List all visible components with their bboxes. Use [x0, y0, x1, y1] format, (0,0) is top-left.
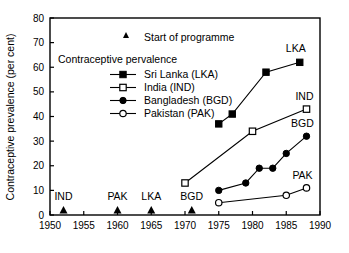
legend-label-ind: India (IND): [144, 81, 195, 93]
series-end-label-pak: PAK: [292, 169, 312, 181]
x-tick-label: 1980: [241, 220, 264, 231]
legend-label-lka: Sri Lanka (LKA): [144, 68, 218, 80]
x-tick-label: 1990: [309, 220, 332, 231]
datapoint-bgd-1985: [283, 150, 289, 156]
datapoint-lka-1982: [263, 69, 269, 75]
y-tick-label: 20: [33, 160, 45, 171]
datapoint-pak-1975: [216, 199, 222, 205]
programme-start-label-bgd: BGD: [180, 190, 203, 202]
x-axis-tick-labels: 195019551960196519701975198019851990: [39, 220, 332, 231]
x-tick-label: 1975: [208, 220, 231, 231]
y-tick-label: 0: [38, 210, 44, 221]
contraceptive-prevalence-line-chart: 01020304050607080 1950195519601965197019…: [0, 0, 349, 253]
series-end-label-lka: LKA: [286, 42, 306, 54]
series-bgd: [216, 133, 310, 194]
legend-label-bgd: Bangladesh (BGD): [144, 94, 232, 106]
datapoint-bgd-1988: [303, 133, 309, 139]
legend-start-of-programme-label: Start of programme: [144, 31, 235, 43]
datapoint-ind-1980: [249, 128, 255, 134]
datapoint-bgd-1981: [256, 165, 262, 171]
series-end-label-ind: IND: [295, 90, 314, 102]
series-line-pak: [219, 188, 307, 203]
datapoint-bgd-1979: [243, 180, 249, 186]
y-axis-title: Contraceptive prevalence (per cent): [4, 34, 16, 201]
programme-start-triangle-bgd: [188, 206, 196, 214]
legend-marker-pak: [120, 110, 126, 116]
legend-marker-lka: [120, 71, 126, 77]
programme-start-label-lka: LKA: [141, 190, 161, 202]
x-tick-label: 1965: [140, 220, 163, 231]
start-of-programme-triangle-icon: [123, 32, 129, 38]
y-axis-tick-labels: 01020304050607080: [33, 13, 45, 221]
programme-start-markers: INDPAKLKABGD: [54, 190, 203, 214]
legend-label-pak: Pakistan (PAK): [144, 107, 214, 119]
x-tick-label: 1985: [275, 220, 298, 231]
series-line-ind: [185, 109, 307, 183]
y-tick-label: 50: [33, 86, 45, 97]
data-series-layer: [182, 59, 310, 206]
legend-title: Contraceptive pervalence: [58, 53, 177, 65]
legend-marker-ind: [120, 84, 126, 90]
x-tick-label: 1970: [174, 220, 197, 231]
datapoint-bgd-1983: [270, 165, 276, 171]
datapoint-lka-1977: [229, 111, 235, 117]
programme-start-triangle-ind: [60, 206, 68, 214]
datapoint-ind-1988: [303, 106, 309, 112]
y-tick-label: 10: [33, 185, 45, 196]
y-tick-label: 80: [33, 13, 45, 24]
legend-marker-bgd: [120, 97, 126, 103]
datapoint-pak-1985: [283, 192, 289, 198]
y-tick-label: 60: [33, 62, 45, 73]
y-tick-label: 40: [33, 111, 45, 122]
chart-legend: Start of programme Contraceptive pervale…: [58, 31, 235, 119]
datapoint-lka-1987: [297, 59, 303, 65]
series-line-bgd: [219, 136, 307, 190]
chart-figure: 01020304050607080 1950195519601965197019…: [0, 0, 349, 253]
x-tick-label: 1960: [106, 220, 129, 231]
programme-start-triangle-pak: [114, 206, 122, 214]
programme-start-triangle-lka: [147, 206, 155, 214]
datapoint-ind-1970: [182, 180, 188, 186]
programme-start-label-pak: PAK: [107, 190, 127, 202]
x-tick-label: 1955: [73, 220, 96, 231]
legend-entry-list: Sri Lanka (LKA)India (IND)Bangladesh (BG…: [110, 68, 232, 119]
y-tick-label: 70: [33, 37, 45, 48]
series-end-label-bgd: BGD: [291, 117, 314, 129]
x-tick-label: 1950: [39, 220, 62, 231]
programme-start-label-ind: IND: [54, 190, 73, 202]
datapoint-lka-1975: [216, 121, 222, 127]
datapoint-pak-1988: [303, 185, 309, 191]
y-tick-label: 30: [33, 136, 45, 147]
datapoint-bgd-1975: [216, 187, 222, 193]
